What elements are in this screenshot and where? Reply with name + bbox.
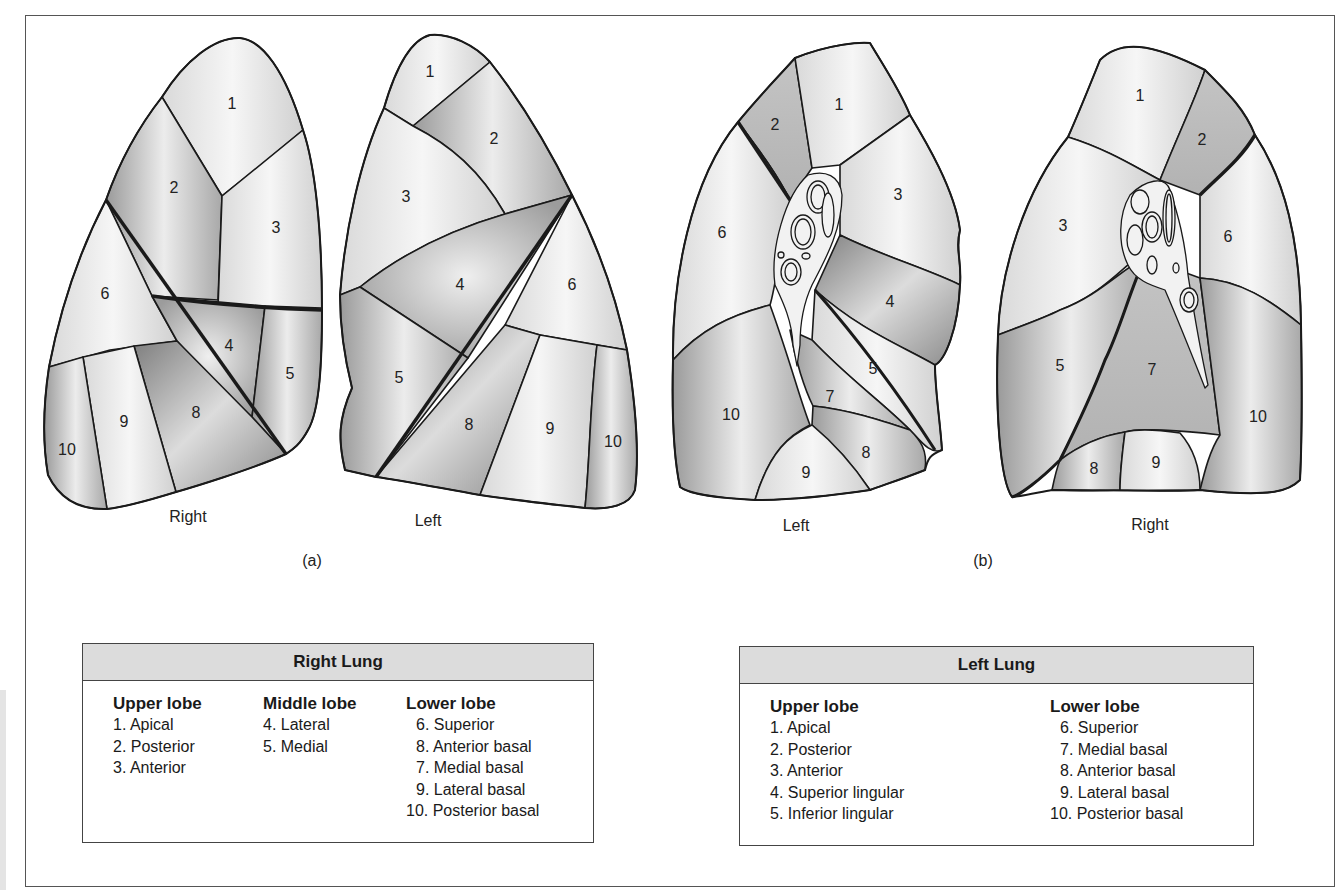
- panel-label-a: (a): [302, 552, 322, 569]
- svg-text:10: 10: [604, 433, 622, 450]
- legend-item: 2. Posterior: [113, 736, 263, 758]
- legend-column-upper-lobe: Upper lobe 1. Apical 2. Posterior 3. Ant…: [113, 693, 263, 822]
- legend-item: 10. Posterior basal: [1050, 803, 1183, 825]
- legend-item: 8. Anterior basal: [406, 736, 539, 758]
- legend-item: 5. Inferior lingular: [770, 803, 1050, 825]
- panel-a-left-lung: [340, 35, 637, 509]
- view-label-a-left: Left: [415, 512, 442, 529]
- svg-text:9: 9: [1152, 454, 1161, 471]
- legend-item: 5. Medial: [263, 736, 406, 758]
- view-label-b-right: Right: [1131, 516, 1169, 533]
- svg-text:5: 5: [286, 365, 295, 382]
- panel-b-left-lung: [673, 43, 961, 500]
- svg-text:10: 10: [722, 406, 740, 423]
- legend-item: 2. Posterior: [770, 739, 1050, 761]
- svg-text:8: 8: [192, 404, 201, 421]
- view-label-a-right: Right: [169, 508, 207, 525]
- view-label-b-left: Left: [783, 517, 810, 534]
- svg-text:6: 6: [718, 224, 727, 241]
- svg-text:10: 10: [58, 441, 76, 458]
- svg-text:4: 4: [456, 276, 465, 293]
- legend-item: 4. Lateral: [263, 714, 406, 736]
- column-title: Lower lobe: [1050, 696, 1183, 717]
- svg-text:3: 3: [272, 219, 281, 236]
- legend-column-lower-lobe: Lower lobe 6. Superior 8. Anterior basal…: [406, 693, 539, 822]
- legend-right-lung: Right Lung Upper lobe 1. Apical 2. Poste…: [82, 643, 594, 843]
- panel-b-right-lung: [997, 47, 1302, 497]
- svg-text:4: 4: [225, 337, 234, 354]
- svg-text:6: 6: [101, 285, 110, 302]
- svg-text:4: 4: [886, 293, 895, 310]
- legend-item: 1. Apical: [770, 717, 1050, 739]
- panel-label-b: (b): [973, 552, 993, 569]
- svg-text:3: 3: [1059, 217, 1068, 234]
- column-title: Lower lobe: [406, 693, 539, 714]
- svg-text:2: 2: [771, 116, 780, 133]
- legend-item: 3. Anterior: [770, 760, 1050, 782]
- legend-item: 3. Anterior: [113, 757, 263, 779]
- legend-item: 6. Superior: [1050, 717, 1183, 739]
- svg-text:1: 1: [228, 95, 237, 112]
- svg-text:9: 9: [120, 413, 129, 430]
- legend-title: Left Lung: [740, 647, 1253, 684]
- svg-text:5: 5: [1056, 357, 1065, 374]
- svg-text:2: 2: [1198, 131, 1207, 148]
- svg-text:5: 5: [395, 369, 404, 386]
- column-title: Upper lobe: [113, 693, 263, 714]
- legend-column-upper-lobe: Upper lobe 1. Apical 2. Posterior 3. Ant…: [770, 696, 1050, 825]
- svg-text:9: 9: [546, 420, 555, 437]
- legend-item: 1. Apical: [113, 714, 263, 736]
- svg-text:7: 7: [826, 388, 835, 405]
- svg-text:8: 8: [862, 444, 871, 461]
- svg-text:3: 3: [402, 188, 411, 205]
- legend-item: 4. Superior lingular: [770, 782, 1050, 804]
- legend-item: 6. Superior: [406, 714, 539, 736]
- svg-text:2: 2: [490, 130, 499, 147]
- svg-text:8: 8: [465, 416, 474, 433]
- legend-column-middle-lobe: Middle lobe 4. Lateral 5. Medial: [263, 693, 406, 822]
- svg-text:2: 2: [170, 179, 179, 196]
- panel-a-right-lung: [44, 38, 322, 509]
- svg-text:3: 3: [894, 186, 903, 203]
- legend-item: 7. Medial basal: [406, 757, 539, 779]
- svg-text:8: 8: [1090, 460, 1099, 477]
- legend-item: 9. Lateral basal: [1050, 782, 1183, 804]
- svg-text:1: 1: [426, 63, 435, 80]
- svg-text:6: 6: [568, 276, 577, 293]
- legend-column-lower-lobe: Lower lobe 6. Superior 7. Medial basal 8…: [1050, 696, 1183, 825]
- svg-text:5: 5: [869, 360, 878, 377]
- column-title: Upper lobe: [770, 696, 1050, 717]
- svg-text:6: 6: [1224, 228, 1233, 245]
- svg-text:1: 1: [1136, 87, 1145, 104]
- svg-text:10: 10: [1249, 408, 1267, 425]
- svg-text:7: 7: [1148, 361, 1157, 378]
- column-title: Middle lobe: [263, 693, 406, 714]
- legend-item: 9. Lateral basal: [406, 779, 539, 801]
- legend-left-lung: Left Lung Upper lobe 1. Apical 2. Poster…: [739, 646, 1254, 846]
- legend-item: 8. Anterior basal: [1050, 760, 1183, 782]
- legend-item: 10. Posterior basal: [406, 800, 539, 822]
- svg-text:9: 9: [802, 464, 811, 481]
- legend-item: 7. Medial basal: [1050, 739, 1183, 761]
- svg-text:1: 1: [835, 96, 844, 113]
- legend-title: Right Lung: [83, 644, 593, 681]
